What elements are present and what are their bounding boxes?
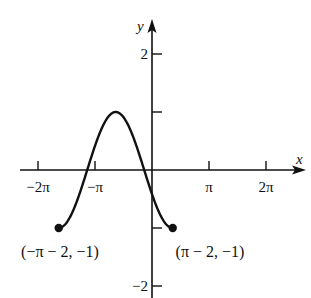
cosine-graph: xy−2π−ππ2π2−2(−π − 2, −1)(π − 2, −1): [0, 0, 311, 298]
endpoint-label: (π − 2, −1): [176, 243, 245, 261]
x-tick-label: −π: [87, 179, 103, 195]
curve: [55, 112, 177, 232]
x-tick-label: π: [205, 179, 213, 195]
endpoint-dot: [169, 224, 177, 232]
x-tick-label: −2π: [26, 179, 50, 195]
endpoint-label: (−π − 2, −1): [21, 243, 99, 261]
y-tick-label: −2: [132, 278, 148, 294]
x-axis-label: x: [295, 151, 303, 167]
x-tick-label: 2π: [258, 179, 274, 195]
labels: xy−2π−ππ2π2−2(−π − 2, −1)(π − 2, −1): [21, 18, 303, 294]
y-tick-label: 2: [141, 46, 149, 62]
graph-figure: xy−2π−ππ2π2−2(−π − 2, −1)(π − 2, −1): [0, 0, 311, 298]
endpoint-dot: [55, 224, 63, 232]
y-axis-label: y: [135, 18, 144, 34]
